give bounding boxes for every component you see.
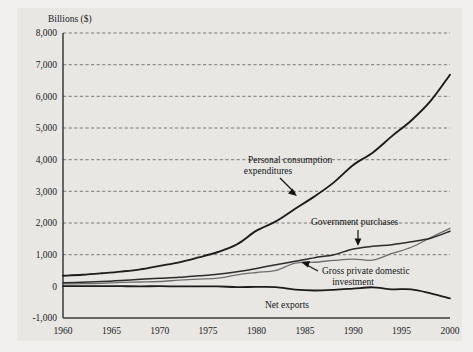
- annotation-gov-line1: Government purchases: [311, 217, 399, 227]
- chart-svg: Billions ($) 8,000 7,000 6,000 5,000 4,0…: [0, 0, 473, 352]
- y-tick-5000: 5,000: [36, 123, 58, 133]
- y-tick-3000: 3,000: [36, 187, 58, 197]
- x-tick-1985: 1985: [295, 326, 314, 336]
- annotation-gross-private-domestic-investment: Gross private domestic investment: [301, 261, 410, 287]
- y-tick-6000: 6,000: [36, 92, 58, 102]
- y-tick-7000: 7,000: [36, 60, 58, 70]
- annotation-nx-line1: Net exports: [265, 300, 309, 310]
- annotation-pce-line1: Personal consumption: [248, 155, 332, 165]
- annotation-gov-arrow-head: [355, 239, 362, 247]
- x-tick-1960: 1960: [54, 326, 73, 336]
- x-tick-2000: 2000: [441, 326, 460, 336]
- y-tick-1000: 1,000: [36, 250, 58, 260]
- y-tick-labels: 8,000 7,000 6,000 5,000 4,000 3,000 2,00…: [32, 28, 57, 323]
- x-tick-1980: 1980: [247, 326, 266, 336]
- annotation-inv-line2: investment: [332, 277, 374, 287]
- y-tick-neg1000: -1,000: [32, 313, 57, 323]
- y-tick-0: 0: [52, 282, 57, 292]
- x-tick-1990: 1990: [344, 326, 363, 336]
- annotation-inv-line1: Gross private domestic: [322, 266, 410, 276]
- x-tick-1970: 1970: [150, 326, 169, 336]
- x-tick-1965: 1965: [102, 326, 121, 336]
- annotation-personal-consumption-expenditures: Personal consumption expenditures: [244, 155, 333, 196]
- x-tick-1975: 1975: [199, 326, 218, 336]
- x-tick-1995: 1995: [392, 326, 411, 336]
- x-tick-labels: 1960 1965 1970 1975 1980 1985 1990 1995 …: [54, 326, 460, 336]
- y-axis-label: Billions ($): [48, 14, 92, 25]
- y-tick-2000: 2,000: [36, 218, 58, 228]
- y-tick-8000: 8,000: [36, 28, 58, 38]
- annotation-pce-arrow-head: [288, 189, 297, 197]
- y-tick-4000: 4,000: [36, 155, 58, 165]
- series-net-exports: [63, 286, 450, 298]
- chart-figure: Billions ($) 8,000 7,000 6,000 5,000 4,0…: [0, 0, 473, 352]
- annotation-government-purchases: Government purchases: [311, 217, 399, 246]
- annotation-net-exports: Net exports: [265, 300, 309, 310]
- annotation-pce-line2: expenditures: [244, 166, 293, 176]
